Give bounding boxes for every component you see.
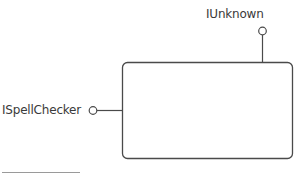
diagram-svg xyxy=(0,0,299,176)
ispellchecker-interface-circle-icon xyxy=(89,107,97,115)
iunknown-interface-lollipop xyxy=(259,27,267,62)
ispellchecker-interface-label: ISpellChecker xyxy=(2,103,81,117)
component-box xyxy=(123,63,293,159)
diagram-canvas: IUnknown ISpellChecker xyxy=(0,0,299,176)
iunknown-interface-label: IUnknown xyxy=(206,7,264,21)
iunknown-interface-circle-icon xyxy=(259,27,267,35)
ispellchecker-interface-lollipop xyxy=(89,107,122,115)
